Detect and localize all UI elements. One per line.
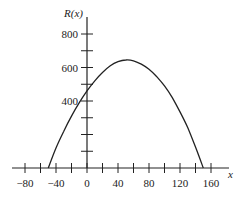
x-axis-title: x [227,168,233,180]
y-tick-label: 600 [62,62,79,74]
axes [12,17,229,168]
y-tick-label: 400 [62,95,79,107]
ticks [25,34,211,173]
x-tick-label: 80 [144,177,156,189]
x-tick-label: −40 [47,177,65,189]
x-tick-label: 120 [172,177,189,189]
y-axis-title: R(x) [63,7,83,20]
r-of-x-curve [48,60,203,168]
y-tick-label: 800 [62,28,79,40]
revenue-parabola-chart: −80−4004080120160400600800 R(x) x [0,0,242,202]
x-tick-label: 40 [113,177,125,189]
x-tick-label: −80 [16,177,34,189]
x-tick-label: 160 [203,177,220,189]
x-tick-label: 0 [84,177,90,189]
